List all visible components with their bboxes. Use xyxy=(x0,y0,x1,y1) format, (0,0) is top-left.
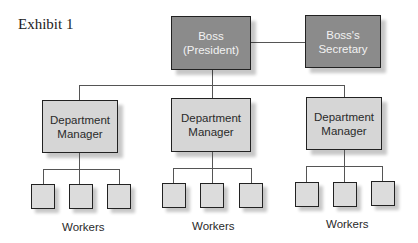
worker-box xyxy=(31,184,55,209)
connector-worker xyxy=(251,168,252,183)
connector-worker xyxy=(306,166,307,182)
boss-role: (President) xyxy=(183,43,239,57)
boss-box: Boss(President) xyxy=(171,16,251,70)
boss-label: Boss xyxy=(183,29,239,43)
dept-manager-box-3: DepartmentManager xyxy=(306,97,382,150)
dept-label: Department xyxy=(314,110,374,124)
workers-label-1: Workers xyxy=(62,221,105,233)
exhibit-title: Exhibit 1 xyxy=(18,16,73,33)
connector-worker xyxy=(43,169,44,184)
dept-label: Department xyxy=(181,111,241,125)
worker-box xyxy=(162,183,186,208)
connector-worker xyxy=(382,166,383,181)
workers-label-3: Workers xyxy=(326,218,369,230)
dept-role: Manager xyxy=(314,124,374,138)
worker-box xyxy=(107,184,131,209)
secretary-label: Boss's xyxy=(318,28,367,42)
connector-workers-3-bar xyxy=(306,166,383,167)
dept-manager-box-1: DepartmentManager xyxy=(42,100,118,153)
org-chart: Exhibit 1 Boss(President) Boss'sSecretar… xyxy=(0,0,418,243)
connector-worker xyxy=(119,169,120,184)
worker-box xyxy=(69,184,93,209)
worker-box xyxy=(200,183,224,208)
dept-manager-box-2: DepartmentManager xyxy=(171,98,251,152)
dept-role: Manager xyxy=(50,127,110,141)
connector-dept-left xyxy=(79,85,80,100)
worker-box xyxy=(333,182,357,207)
connector-dept-bar xyxy=(79,85,345,86)
worker-box xyxy=(371,181,395,206)
dept-role: Manager xyxy=(181,125,241,139)
secretary-role: Secretary xyxy=(318,42,367,56)
connector-worker xyxy=(173,168,174,183)
worker-box xyxy=(239,183,263,208)
connector-workers-2-bar xyxy=(173,168,252,169)
workers-label-2: Workers xyxy=(192,220,235,232)
dept-label: Department xyxy=(50,113,110,127)
secretary-box: Boss'sSecretary xyxy=(305,15,381,68)
connector-workers-1-bar xyxy=(43,169,120,170)
connector-boss-trunk xyxy=(212,70,213,98)
connector-dept-right xyxy=(344,85,345,97)
connector-boss-secretary xyxy=(251,42,305,43)
worker-box xyxy=(295,182,319,207)
